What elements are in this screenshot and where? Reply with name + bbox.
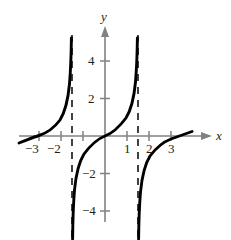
- x-tick-label-3: 3: [168, 142, 175, 155]
- y-tick-label-4: 4: [88, 54, 95, 67]
- y-axis-label: y: [101, 10, 107, 23]
- y-tick-label-neg2: −2: [82, 167, 96, 180]
- x-tick-label-1: 1: [124, 142, 131, 155]
- x-tick-label-neg3: −3: [25, 142, 39, 155]
- y-axis: [101, 26, 109, 222]
- y-tick-label-neg4: −4: [82, 204, 96, 217]
- y-tick-label-2: 2: [88, 92, 95, 105]
- plot-area: [0, 0, 231, 240]
- curve-branch-left: [19, 38, 71, 143]
- x-tick-label-2: 2: [146, 142, 153, 155]
- x-axis-label: x: [216, 129, 222, 142]
- tangent-function-graph: −3 −2 1 2 3 4 2 −2 −4 y x: [0, 0, 231, 240]
- x-tick-label-neg2: −2: [47, 142, 61, 155]
